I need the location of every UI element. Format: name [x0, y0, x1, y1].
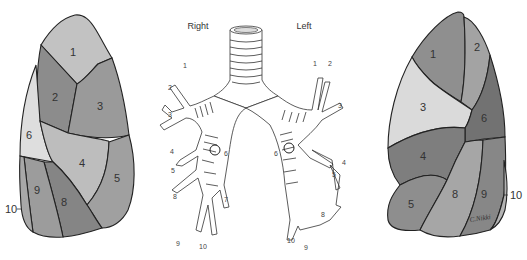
right-bronchus-label-7: 7	[224, 196, 228, 203]
label-left: Left	[296, 21, 312, 31]
left-bronchus-label-1: 1	[313, 60, 317, 67]
left-bronchus-label-9: 9	[304, 244, 308, 251]
left-lung-label-5: 5	[408, 198, 414, 210]
left-lung: 1 2 3 4 5 6 8 9 10 C.Nikki	[388, 12, 523, 237]
right-bronchus-label-1: 1	[183, 62, 187, 69]
left-bronchus-label-3: 3	[338, 102, 342, 109]
left-bronchus-label-4: 4	[342, 159, 346, 166]
right-lung-label-8: 8	[61, 196, 67, 208]
left-lung-label-3: 3	[420, 101, 426, 113]
trachea	[214, 26, 278, 108]
left-lung-label-6: 6	[481, 112, 487, 124]
right-lung-label-3: 3	[97, 100, 103, 112]
right-bronchus-label-9: 9	[176, 240, 180, 247]
left-bronchus-label-5: 5	[332, 171, 336, 178]
right-lung-label-5: 5	[114, 172, 120, 184]
right-lung-label-9: 9	[34, 184, 40, 196]
right-bronchus-label-5: 5	[171, 167, 175, 174]
left-lung-label-1: 1	[430, 48, 436, 60]
right-bronchi	[160, 85, 246, 235]
lung-segments-diagram: 1 2 3 4 5 6 8 9 10 1 2 3 4 5 6 8	[0, 0, 527, 260]
left-bronchus-label-10: 10	[287, 237, 295, 244]
left-lung-label-2: 2	[474, 41, 480, 53]
right-bronchus-label-6: 6	[224, 150, 228, 157]
right-bronchus-label-3: 3	[168, 111, 172, 118]
left-lung-label-9: 9	[481, 188, 487, 200]
left-bronchus-label-2: 2	[328, 60, 332, 67]
left-lung-label-4: 4	[420, 150, 426, 162]
left-lung-label-10: 10	[510, 189, 522, 201]
left-lung-label-8: 8	[452, 188, 458, 200]
right-bronchus-label-8: 8	[173, 193, 177, 200]
right-lung-label-4: 4	[79, 157, 85, 169]
right-lung-label-2: 2	[52, 91, 58, 103]
label-right: Right	[187, 21, 209, 31]
right-lung: 1 2 3 4 5 6 8 9 10	[5, 15, 134, 237]
right-bronchus-label-2: 2	[168, 84, 172, 91]
right-lung-label-6: 6	[26, 129, 32, 141]
left-bronchi	[246, 78, 343, 240]
left-bronchus-label-8: 8	[321, 211, 325, 218]
right-lung-label-10: 10	[5, 203, 17, 215]
right-lung-label-1: 1	[70, 46, 76, 58]
right-bronchus-label-4: 4	[170, 148, 174, 155]
bronchial-tree: Right Left 1	[160, 21, 346, 251]
left-bronchus-label-6: 6	[274, 150, 278, 157]
right-bronchus-label-10: 10	[199, 243, 207, 250]
